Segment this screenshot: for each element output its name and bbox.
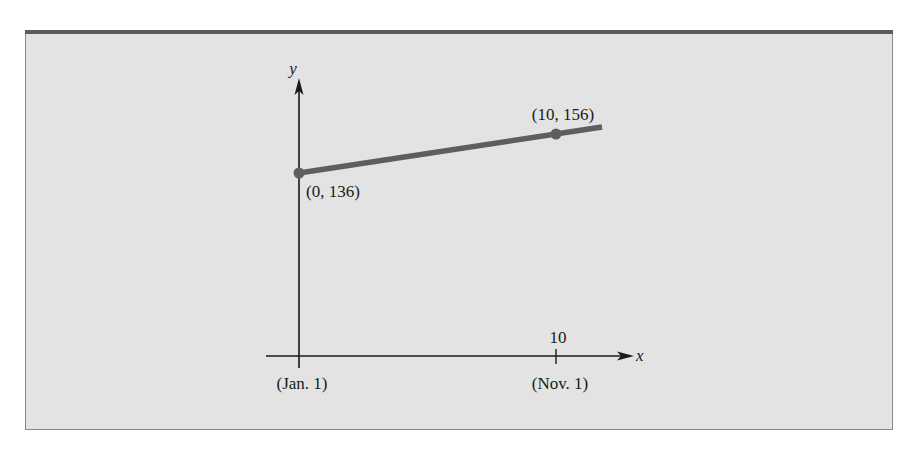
y-axis: y (287, 59, 303, 368)
line-chart: y x 10 (Jan. 1) (Nov. 1) (0, 136) (10, 1… (0, 0, 924, 449)
data-point-start (294, 168, 305, 179)
data-series: (0, 136) (10, 156) (294, 105, 603, 201)
x-axis: x 10 (Jan. 1) (Nov. 1) (266, 328, 644, 393)
x-tick-label-10: 10 (550, 328, 567, 347)
x-sublabel-jan: (Jan. 1) (277, 374, 328, 393)
y-axis-label: y (287, 59, 297, 78)
data-point-end (551, 129, 562, 140)
x-sublabel-nov: (Nov. 1) (532, 374, 589, 393)
x-axis-label: x (635, 346, 644, 365)
point-label-end: (10, 156) (532, 105, 594, 124)
point-label-start: (0, 136) (306, 182, 360, 201)
